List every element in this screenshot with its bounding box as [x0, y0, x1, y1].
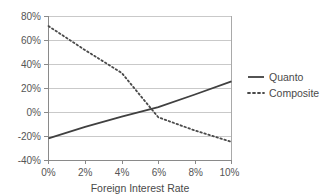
y-tick-label-neg40: -40%: [18, 155, 41, 166]
x-tick-label-2: 2%: [78, 167, 93, 178]
x-axis-title: Foreign Interest Rate: [91, 182, 190, 194]
y-tick-label-60: 60%: [21, 35, 41, 46]
y-tick-label-20: 20%: [21, 83, 41, 94]
x-tick-label-4: 4%: [115, 167, 130, 178]
legend-label-quanto: Quanto: [269, 71, 304, 83]
x-tick-label-0: 0%: [41, 167, 56, 178]
chart-container: 80% 60% 40% 20% 0% -20% -40% 0% 2% 4% 6%…: [0, 0, 332, 196]
x-tick-label-6: 6%: [152, 167, 167, 178]
y-tick-label-40: 40%: [21, 59, 41, 70]
x-tick-label-8: 8%: [188, 167, 203, 178]
y-tick-label-neg20: -20%: [18, 131, 41, 142]
line-chart: 80% 60% 40% 20% 0% -20% -40% 0% 2% 4% 6%…: [0, 0, 332, 196]
y-tick-label-0: 0%: [27, 107, 42, 118]
y-tick-label-80: 80%: [21, 11, 41, 22]
legend-label-composite: Composite: [269, 87, 319, 99]
x-tick-label-10: 10%: [219, 167, 239, 178]
